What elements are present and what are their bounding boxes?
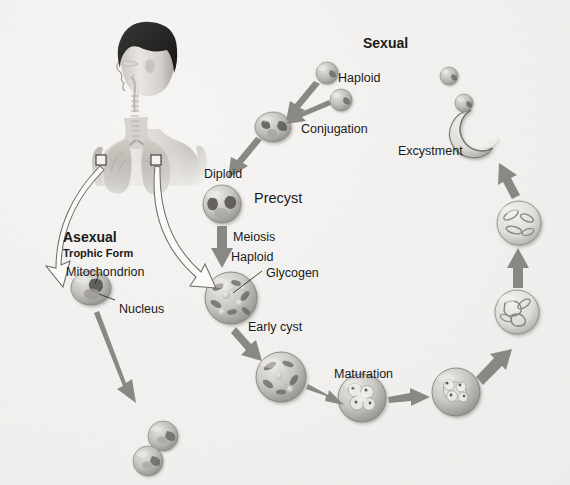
heading-sexual: Sexual [363, 36, 408, 50]
leader-glycogen [233, 271, 262, 293]
life-cycle-diagram: Asexual Trophic Form Sexual Haploid Conj… [0, 0, 570, 485]
label-conjugation: Conjugation [301, 123, 368, 136]
label-precyst: Precyst [254, 191, 302, 206]
label-haploid-cyst: Haploid [231, 251, 273, 264]
label-haploid-gamete-1: Haploid [338, 72, 380, 85]
label-meiosis: Meiosis [233, 231, 275, 244]
arrow-precyst-to-haploid-cyst [211, 226, 233, 268]
heading-asexual-sub: Trophic Form [63, 248, 133, 259]
arrow-mature-to-late [476, 349, 512, 385]
arrow-early-to-maturing [306, 384, 344, 405]
label-diploid: Diploid [204, 168, 242, 181]
label-excystment: Excystment [398, 145, 463, 158]
leader-nucleus [99, 294, 115, 300]
arrow-pre-excyst-to-excystment [498, 163, 520, 199]
label-maturation: Maturation [334, 368, 393, 381]
label-early-cyst: Early cyst [248, 321, 302, 334]
heading-asexual: Asexual [63, 230, 117, 244]
arrow-maturing-to-mature [388, 388, 430, 406]
arrow-lung-to-haploid-cyst [154, 166, 216, 288]
label-nucleus: Nucleus [119, 303, 164, 316]
arrow-late-to-pre-excyst [507, 248, 529, 288]
label-mitochondrion: Mitochondrion [66, 266, 145, 279]
arrow-trophic-to-daughters [94, 311, 136, 403]
label-glycogen: Glycogen [266, 267, 319, 280]
